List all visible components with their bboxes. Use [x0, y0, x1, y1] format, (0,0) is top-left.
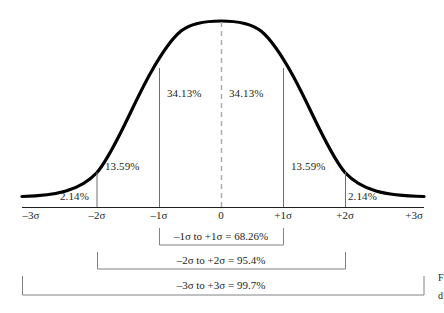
bell-curve-path — [22, 21, 424, 197]
bracket-label-one-sigma: –1σ to +1σ = 68.26% — [170, 230, 272, 242]
caption-fragment-line-2: d — [438, 290, 444, 301]
bracket-label-two-sigma: –2σ to +2σ = 95.4% — [173, 254, 270, 266]
distribution-plot-svg — [0, 0, 444, 313]
band-label-right-outer: 2.14% — [348, 190, 377, 202]
band-label-left-outer: 2.14% — [60, 190, 89, 202]
axis-tick-zero: 0 — [218, 209, 224, 221]
axis-tick-plus-2-sigma: +2σ — [336, 209, 354, 221]
band-label-right-inner: 34.13% — [229, 87, 264, 99]
caption-fragment-line-1: F — [438, 272, 444, 283]
axis-tick-minus-3-sigma: –3σ — [23, 209, 40, 221]
axis-tick-minus-1-sigma: –1σ — [151, 209, 168, 221]
axis-tick-minus-2-sigma: –2σ — [89, 209, 106, 221]
axis-tick-plus-1-sigma: +1σ — [274, 209, 292, 221]
band-label-right-mid: 13.59% — [291, 160, 326, 172]
axis-tick-plus-3-sigma: +3σ — [405, 209, 423, 221]
bracket-label-three-sigma: –3σ to +3σ = 99.7% — [173, 279, 270, 291]
band-label-left-inner: 34.13% — [167, 87, 202, 99]
band-label-left-mid: 13.59% — [105, 160, 140, 172]
normal-distribution-figure: 2.14% 13.59% 34.13% 34.13% 13.59% 2.14% … — [0, 0, 444, 313]
